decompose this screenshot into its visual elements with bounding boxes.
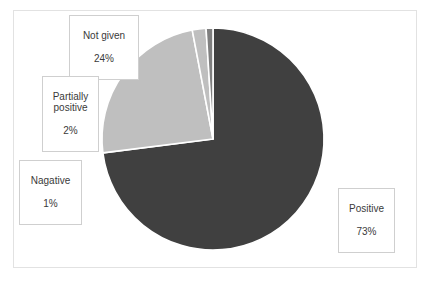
pie-label-positive-value: 73% <box>344 226 389 238</box>
pie-label-nagative: Nagative 1% <box>19 160 82 225</box>
pie-label-not-given: Not given 24% <box>69 15 139 80</box>
pie-label-not-given-value: 24% <box>75 53 133 65</box>
pie-label-partially-positive-value: 2% <box>48 125 93 137</box>
pie-label-nagative-value: 1% <box>25 198 76 210</box>
pie-label-partially-positive: Partially positive 2% <box>42 76 99 152</box>
pie-label-positive: Positive 73% <box>338 188 395 253</box>
pie-label-nagative-text: Nagative <box>25 175 76 187</box>
pie-label-positive-text: Positive <box>344 203 389 215</box>
pie-label-partially-positive-text: Partially positive <box>48 91 93 114</box>
pie-label-not-given-text: Not given <box>75 30 133 42</box>
